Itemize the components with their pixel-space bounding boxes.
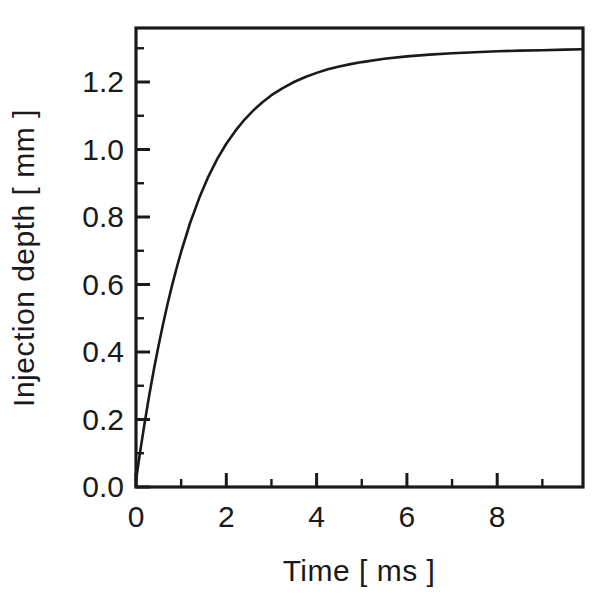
y-tick-label: 0.0: [82, 470, 124, 503]
y-tick-label: 0.8: [82, 200, 124, 233]
data-series-injection-depth: [136, 49, 583, 480]
figure-container: 0.00.20.40.60.81.01.2 02468 Time [ ms ] …: [0, 0, 613, 604]
y-axis-tick-labels: 0.00.20.40.60.81.01.2: [82, 65, 124, 503]
y-tick-label: 0.2: [82, 403, 124, 436]
y-tick-label: 1.2: [82, 65, 124, 98]
plot-frame: [136, 28, 583, 487]
y-tick-label: 0.4: [82, 335, 124, 368]
x-tick-label: 4: [308, 500, 325, 533]
y-tick-label: 0.6: [82, 268, 124, 301]
y-axis-title: Injection depth [ mm ]: [7, 109, 40, 407]
x-tick-label: 0: [128, 500, 145, 533]
chart-svg: 0.00.20.40.60.81.01.2 02468 Time [ ms ] …: [0, 0, 613, 604]
y-tick-label: 1.0: [82, 133, 124, 166]
x-axis-tick-labels: 02468: [128, 500, 506, 533]
x-axis-title: Time [ ms ]: [283, 554, 436, 587]
x-axis-major-ticks: [136, 473, 497, 487]
x-tick-label: 2: [218, 500, 235, 533]
x-tick-label: 6: [399, 500, 416, 533]
x-tick-label: 8: [489, 500, 506, 533]
